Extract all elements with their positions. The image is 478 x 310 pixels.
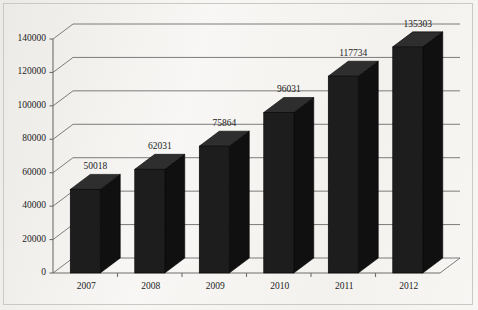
bar-2012 (393, 32, 443, 273)
y-axis-label-140000: 140000 (0, 34, 46, 44)
chart-canvas (0, 0, 478, 310)
x-axis-label-2009: 2009 (206, 282, 225, 292)
x-axis-label-2012: 2012 (399, 282, 418, 292)
y-axis-label-120000: 120000 (0, 68, 46, 78)
plot-area (0, 0, 478, 310)
y-axis-label-20000: 20000 (0, 235, 46, 245)
bar-value-label: 75864 (212, 119, 236, 129)
bar-2011 (328, 61, 378, 273)
x-axis-label-2008: 2008 (141, 282, 160, 292)
y-axis-label-0: 0 (0, 268, 46, 278)
bar-2008 (135, 154, 185, 273)
y-axis-label-80000: 80000 (0, 135, 46, 145)
x-axis-label-2010: 2010 (270, 282, 289, 292)
bar-2010 (264, 97, 314, 273)
bar-value-label: 50018 (83, 162, 107, 172)
bar-chart-figure: 020000400006000080000100000120000140000 … (0, 0, 478, 310)
bar-value-label: 117734 (339, 49, 367, 59)
y-axis-label-60000: 60000 (0, 168, 46, 178)
x-axis-label-2007: 2007 (77, 282, 96, 292)
bar-value-label: 62031 (148, 142, 172, 152)
x-axis-label-2011: 2011 (335, 282, 354, 292)
bar-value-label: 96031 (277, 85, 301, 95)
bar-value-label: 135303 (404, 20, 433, 30)
bar-2009 (199, 131, 249, 273)
y-axis-label-40000: 40000 (0, 201, 46, 211)
y-axis-label-100000: 100000 (0, 101, 46, 111)
bar-2007 (70, 174, 120, 273)
